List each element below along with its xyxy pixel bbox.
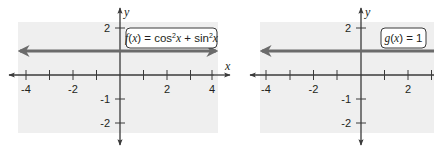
function-label-g: g(x) = 1 (384, 32, 422, 45)
x-tick-label--2: -2 (68, 83, 78, 95)
y-tick-label--2: -2 (100, 117, 110, 129)
function-label-f: f(x) = cos2x + sin2x (125, 32, 219, 45)
x-tick-label-2: 2 (405, 83, 411, 95)
x-tick-label--4: -4 (21, 83, 31, 95)
y-axis-name: y (364, 5, 371, 19)
y-axis-name: y (123, 5, 130, 19)
x-tick-label-2: 2 (164, 83, 170, 95)
graph-g: -4 -2 2 2 -1 -2 y g(x) = 1 (250, 5, 434, 145)
graphs-canvas: -4 -2 2 4 2 -1 -2 y x f(x) = cos2x + sin… (0, 0, 434, 155)
x-axis-name: x (224, 59, 231, 73)
y-tick-label-2: 2 (104, 22, 110, 34)
x-tick-label--2: -2 (309, 83, 319, 95)
x-tick-label--4: -4 (261, 83, 271, 95)
x-tick-label-4: 4 (209, 83, 215, 95)
y-tick-label--1: -1 (341, 93, 351, 105)
y-tick-label--2: -2 (341, 117, 351, 129)
y-tick-label--1: -1 (100, 93, 110, 105)
y-tick-label-2: 2 (345, 22, 351, 34)
graph-f: -4 -2 2 4 2 -1 -2 y x f(x) = cos2x + sin… (9, 5, 231, 145)
